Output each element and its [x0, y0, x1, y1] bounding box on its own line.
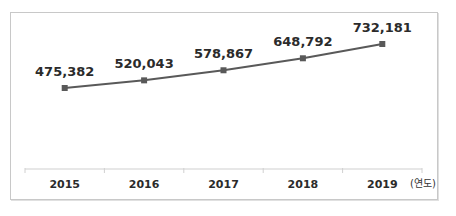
- x-axis-label: 2015: [49, 178, 80, 191]
- x-axis-label: 2017: [208, 178, 239, 191]
- data-label: 648,792: [273, 34, 332, 49]
- x-axis-label: 2019: [367, 178, 398, 191]
- data-point-marker: [300, 55, 306, 61]
- data-label: 578,867: [194, 46, 253, 61]
- data-point-marker: [62, 85, 68, 91]
- x-axis-labels: 20152016201720182019: [49, 178, 397, 191]
- data-point-marker: [221, 67, 227, 73]
- data-label: 475,382: [35, 64, 94, 79]
- x-axis-unit-label: (연도): [410, 178, 436, 189]
- data-point-marker: [379, 41, 385, 47]
- x-axis-label: 2018: [288, 178, 319, 191]
- line-chart: 475,382520,043578,867648,792732,181 2015…: [0, 0, 456, 216]
- data-label: 520,043: [114, 56, 173, 71]
- x-axis-label: 2016: [129, 178, 160, 191]
- data-label: 732,181: [353, 20, 412, 35]
- data-point-marker: [141, 77, 147, 83]
